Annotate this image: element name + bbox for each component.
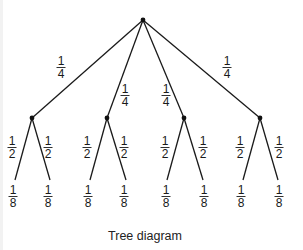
fraction-numerator: 1 xyxy=(200,134,207,148)
fraction-numerator: 1 xyxy=(10,183,17,197)
tree-diagram: 1414141412181218121812181218121812181218… xyxy=(0,0,303,250)
fraction-numerator: 1 xyxy=(45,134,52,148)
fraction-denominator: 8 xyxy=(201,196,208,210)
branch-node-1 xyxy=(30,116,35,121)
fraction-numerator: 1 xyxy=(201,183,208,197)
fraction-numerator: 1 xyxy=(162,134,169,148)
fraction-numerator: 1 xyxy=(163,183,170,197)
fraction-denominator: 2 xyxy=(276,147,283,161)
branch-node-2 xyxy=(105,116,110,121)
edge-label-half: 12 xyxy=(161,134,170,161)
leaf-probability-eighth: 18 xyxy=(162,183,171,210)
edge-label-quarter: 14 xyxy=(121,82,130,109)
edge-label-half: 12 xyxy=(44,134,53,161)
root-node xyxy=(141,18,146,23)
leaf-probability-eighth: 18 xyxy=(275,183,284,210)
fraction-denominator: 8 xyxy=(10,196,17,210)
edge-label-half: 12 xyxy=(275,134,284,161)
fraction-numerator: 1 xyxy=(45,183,52,197)
fraction-denominator: 8 xyxy=(276,196,283,210)
probability-labels: 1414141412181218121812181218121812181218 xyxy=(8,54,284,210)
leaf-probability-eighth: 18 xyxy=(120,183,129,210)
fraction-denominator: 2 xyxy=(237,147,244,161)
leaf-probability-eighth: 18 xyxy=(84,183,93,210)
leaf-probability-eighth: 18 xyxy=(237,183,246,210)
fraction-denominator: 2 xyxy=(200,147,207,161)
fraction-denominator: 2 xyxy=(45,147,52,161)
fraction-numerator: 1 xyxy=(122,82,129,96)
edge-label-half: 12 xyxy=(8,134,17,161)
edge-label-quarter: 14 xyxy=(57,54,66,81)
edge-label-quarter: 14 xyxy=(162,82,171,109)
edge-label-half: 12 xyxy=(236,134,245,161)
edge-node-to-leaf-1 xyxy=(15,118,32,180)
branch-node-4 xyxy=(258,116,263,121)
fraction-denominator: 4 xyxy=(224,67,231,81)
fraction-denominator: 8 xyxy=(121,196,128,210)
branch-node-3 xyxy=(182,116,187,121)
fraction-numerator: 1 xyxy=(163,82,170,96)
edge-root-to-node-4 xyxy=(143,20,260,118)
leaf-probability-eighth: 18 xyxy=(200,183,209,210)
fraction-numerator: 1 xyxy=(224,54,231,68)
fraction-denominator: 8 xyxy=(163,196,170,210)
fraction-denominator: 2 xyxy=(162,147,169,161)
fraction-numerator: 1 xyxy=(121,183,128,197)
edge-node-to-leaf-5 xyxy=(167,118,184,180)
fraction-denominator: 2 xyxy=(84,147,91,161)
fraction-denominator: 8 xyxy=(85,196,92,210)
fraction-denominator: 2 xyxy=(121,147,128,161)
fraction-denominator: 8 xyxy=(45,196,52,210)
fraction-numerator: 1 xyxy=(237,134,244,148)
fraction-numerator: 1 xyxy=(58,54,65,68)
leaf-probability-eighth: 18 xyxy=(9,183,18,210)
fraction-denominator: 4 xyxy=(163,95,170,109)
edge-label-quarter: 14 xyxy=(223,54,232,81)
fraction-numerator: 1 xyxy=(85,183,92,197)
fraction-denominator: 4 xyxy=(58,67,65,81)
edge-node-to-leaf-3 xyxy=(90,118,107,180)
leaf-probability-eighth: 18 xyxy=(44,183,53,210)
diagram-caption: Tree diagram xyxy=(108,229,182,243)
edge-label-half: 12 xyxy=(83,134,92,161)
fraction-numerator: 1 xyxy=(9,134,16,148)
fraction-numerator: 1 xyxy=(276,134,283,148)
fraction-denominator: 4 xyxy=(122,95,129,109)
fraction-numerator: 1 xyxy=(84,134,91,148)
fraction-numerator: 1 xyxy=(276,183,283,197)
edge-label-half: 12 xyxy=(120,134,129,161)
fraction-numerator: 1 xyxy=(238,183,245,197)
fraction-denominator: 2 xyxy=(9,147,16,161)
edge-label-half: 12 xyxy=(199,134,208,161)
edge-node-to-leaf-7 xyxy=(243,118,260,180)
fraction-numerator: 1 xyxy=(121,134,128,148)
fraction-denominator: 8 xyxy=(238,196,245,210)
